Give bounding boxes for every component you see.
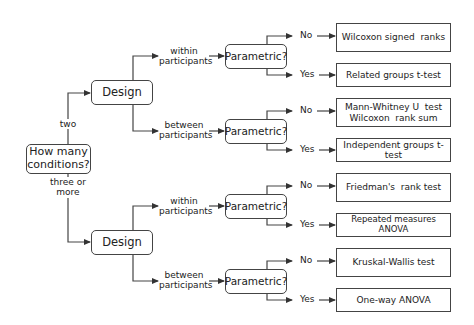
result-related-groups-t-test: Related groups t-test bbox=[336, 63, 451, 87]
within-text: within bbox=[159, 46, 209, 56]
no-label: No bbox=[300, 255, 312, 265]
between-participants-label-top: between participants bbox=[159, 120, 209, 141]
no-label: No bbox=[300, 180, 312, 190]
result-text: Independent groups t-test bbox=[337, 140, 450, 161]
root-label-line2: conditions? bbox=[27, 159, 89, 172]
result-text-line2: Wilcoxon rank sum bbox=[349, 113, 437, 123]
result-mann-whitney-wilcoxon-rank-sum: Mann-Whitney U test Wilcoxon rank sum bbox=[336, 98, 451, 127]
branch-label-three-line2: more bbox=[46, 187, 90, 197]
parametric-node-two-within: Parametric? bbox=[225, 44, 287, 69]
result-friedmans-rank-test: Friedman's rank test bbox=[336, 173, 451, 202]
result-kruskal-wallis-test: Kruskal-Wallis test bbox=[336, 248, 451, 277]
yes-label: Yes bbox=[300, 294, 315, 304]
participants-text: participants bbox=[159, 206, 209, 216]
within-participants-label-top: within participants bbox=[159, 46, 209, 67]
how-many-conditions-node: How many conditions? bbox=[26, 144, 91, 174]
result-text-line1: Mann-Whitney U test bbox=[345, 102, 442, 112]
branch-label-three-or-more: three or more bbox=[46, 177, 90, 198]
within-text: within bbox=[159, 196, 209, 206]
result-repeated-measures-anova: Repeated measures ANOVA bbox=[336, 213, 451, 237]
within-participants-label-bottom: within participants bbox=[159, 196, 209, 217]
between-text: between bbox=[159, 270, 209, 280]
design-node-three-or-more: Design bbox=[91, 230, 153, 255]
no-label: No bbox=[300, 30, 312, 40]
result-independent-groups-t-test: Independent groups t-test bbox=[336, 138, 451, 162]
result-text: Repeated measures ANOVA bbox=[337, 215, 450, 235]
branch-label-three-line1: three or bbox=[46, 177, 90, 187]
participants-text: participants bbox=[159, 130, 209, 140]
result-text: Related groups t-test bbox=[346, 70, 441, 80]
yes-label: Yes bbox=[300, 69, 315, 79]
result-text: Friedman's rank test bbox=[346, 182, 441, 192]
participants-text: participants bbox=[159, 280, 209, 290]
result-text: Kruskal-Wallis test bbox=[352, 257, 434, 267]
between-text: between bbox=[159, 120, 209, 130]
no-label: No bbox=[300, 105, 312, 115]
result-text: One-way ANOVA bbox=[356, 295, 430, 305]
between-participants-label-bottom: between participants bbox=[159, 270, 209, 291]
parametric-node-two-between: Parametric? bbox=[225, 119, 287, 144]
parametric-node-three-within: Parametric? bbox=[225, 194, 287, 219]
result-text: Wilcoxon signed ranks bbox=[342, 32, 445, 42]
branch-label-two: two bbox=[56, 119, 80, 129]
yes-label: Yes bbox=[300, 144, 315, 154]
result-one-way-anova: One-way ANOVA bbox=[336, 288, 451, 312]
participants-text: participants bbox=[159, 56, 209, 66]
result-wilcoxon-signed-ranks: Wilcoxon signed ranks bbox=[336, 23, 451, 52]
design-node-two: Design bbox=[91, 80, 153, 105]
parametric-node-three-between: Parametric? bbox=[225, 269, 287, 294]
yes-label: Yes bbox=[300, 219, 315, 229]
